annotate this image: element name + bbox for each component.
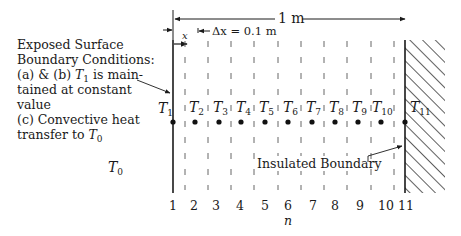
exposed-surface-leader-arrow	[137, 80, 170, 93]
dx-label: Δx = 0.1 m	[212, 24, 277, 38]
svg-text:6: 6	[284, 198, 292, 213]
insulated-boundary-label: Insulated Boundary	[257, 156, 383, 171]
node-label-8: T8	[329, 99, 344, 117]
total-length-dimension: 1 m	[173, 10, 405, 40]
node-dot-6	[285, 119, 290, 124]
node-dot-5	[262, 119, 267, 124]
svg-text:10: 10	[378, 198, 394, 213]
ambient-temperature-label: T0	[108, 159, 123, 177]
node-dots	[170, 119, 407, 124]
svg-text:9: 9	[356, 198, 364, 213]
node-dot-8	[332, 119, 337, 124]
node-temperature-labels: T1 T2 T3 T4 T5 T6 T7 T8 T9 T10 T11	[158, 99, 431, 118]
node-label-1: T1	[158, 100, 173, 118]
svg-text:x: x	[182, 30, 188, 41]
node-dot-10	[378, 119, 383, 124]
node-dot-2	[192, 119, 197, 124]
total-length-label: 1 m	[278, 10, 305, 26]
node-label-3: T3	[213, 99, 228, 117]
x-direction-arrow: x	[174, 30, 188, 44]
svg-text:5: 5	[261, 198, 269, 213]
slab-node-diagram: T0 1 m Δx = 0.1 m x	[0, 0, 461, 236]
node-label-9: T9	[352, 99, 367, 117]
svg-text:1: 1	[169, 198, 177, 213]
node-dot-1	[170, 119, 175, 124]
node-dot-11	[402, 119, 407, 124]
node-label-7: T7	[306, 99, 321, 117]
node-dot-4	[238, 119, 243, 124]
dx-dimension: Δx = 0.1 m	[163, 24, 277, 38]
svg-text:8: 8	[331, 198, 339, 213]
node-label-5: T5	[259, 99, 274, 117]
node-label-10: T10	[372, 99, 393, 117]
node-dot-7	[309, 119, 314, 124]
svg-text:3: 3	[212, 198, 220, 213]
node-label-4: T4	[236, 99, 251, 117]
node-dot-3	[216, 119, 221, 124]
svg-text:2: 2	[190, 198, 198, 213]
svg-text:11: 11	[398, 198, 414, 213]
svg-text:7: 7	[309, 198, 317, 213]
node-label-6: T6	[283, 99, 298, 117]
svg-text:4: 4	[236, 198, 244, 213]
axis-label-n: n	[284, 213, 292, 228]
node-label-2: T2	[189, 99, 204, 117]
node-index-axis: 1 2 3 4 5 6 7 8 9 10 11	[169, 198, 414, 213]
node-dot-9	[355, 119, 360, 124]
